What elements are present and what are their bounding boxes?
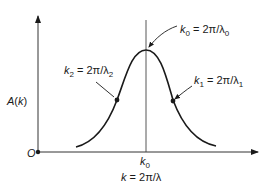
k2-point [115,98,120,103]
y-axis-label: A(k) [6,95,27,107]
wave-packet-diagram: A(k) O k0 k = 2π/λ k0 = 2π/λ0 k1 = 2π/λ1… [0,0,272,191]
x-axis-label: k = 2π/λ [121,171,162,183]
k2-annotation: k2 = 2π/λ2 [64,64,114,79]
k0-annotation: k0 = 2π/λ0 [180,23,230,38]
k1-annotation: k1 = 2π/λ1 [194,74,244,89]
k1-point [171,99,176,104]
k2-pointer-line [96,82,114,97]
origin-label: O [27,147,36,159]
x-tick-label-k0: k0 [140,155,151,170]
k0-pointer-arrow [149,26,177,47]
origin-dot [36,150,40,154]
k1-pointer-arrow [175,86,192,99]
